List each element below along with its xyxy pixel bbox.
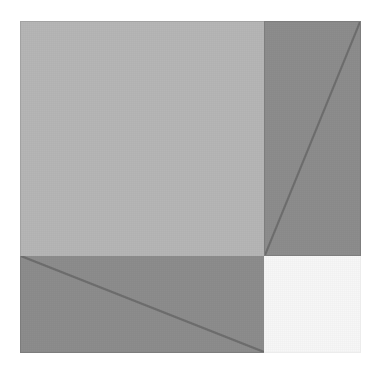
geometric-composition <box>20 21 361 353</box>
diagonal-falling-icon <box>21 256 264 352</box>
panel-bottom-right <box>264 256 361 353</box>
panel-top-right <box>264 21 361 256</box>
panel-top-left <box>20 21 264 256</box>
panel-bottom-left <box>20 256 264 353</box>
panel-texture-overlay <box>264 256 360 352</box>
diagonal-rising-icon <box>265 22 360 255</box>
panel-texture-overlay <box>21 22 264 256</box>
image-canvas <box>0 0 380 376</box>
